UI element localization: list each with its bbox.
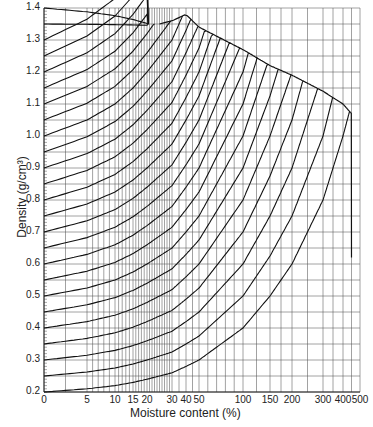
density-curve [44,112,350,392]
y-axis-title: Density (g/cm³) [15,137,29,257]
density-curve [44,75,291,328]
density-curve [44,31,206,184]
density-curve [44,0,148,40]
x-axis-title: Moisture content (%) [130,406,241,420]
y-tick-label: 0.4 [12,321,40,332]
density-curve [44,0,148,56]
x-tick-label: 5 [72,394,102,405]
y-tick-label: 0.6 [12,257,40,268]
x-tick-label: 100 [228,394,258,405]
density-curve [44,98,333,376]
x-tick-label: 200 [277,394,307,405]
y-tick-label: 0.3 [12,353,40,364]
density-curve [44,58,258,280]
y-tick-label: 1.1 [12,97,40,108]
x-tick-label: 50 [184,394,214,405]
x-tick-label: 0 [29,394,59,405]
y-tick-label: 1.2 [12,65,40,76]
y-tick-label: 1.3 [12,33,40,44]
x-tick-label: 500 [345,394,373,405]
density-curve [44,8,148,24]
y-tick-label: 1.4 [12,1,40,12]
density-curve [44,48,241,248]
density-curve [44,43,231,232]
y-tick-label: 0.5 [12,289,40,300]
density-curve [44,53,248,264]
density-curve [44,0,148,72]
